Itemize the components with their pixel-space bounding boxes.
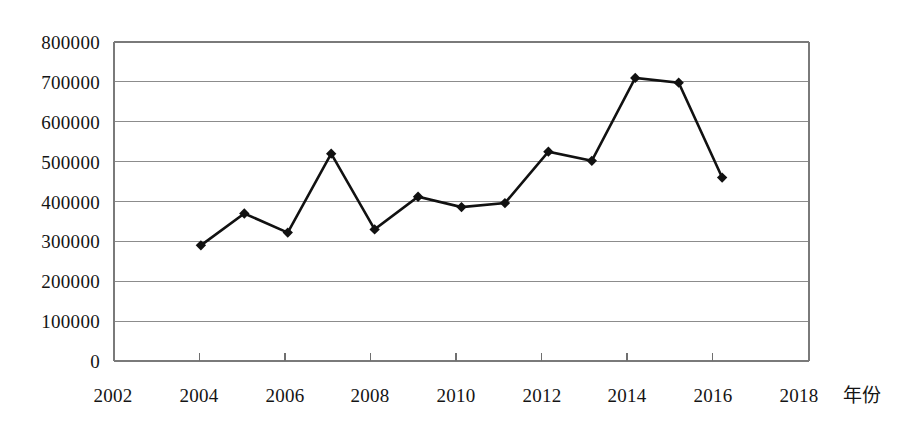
data-point-2006 — [283, 227, 293, 237]
plot-area — [0, 0, 899, 447]
xtick-label-2016: 2016 — [668, 386, 758, 405]
data-point-2010 — [456, 202, 466, 212]
data-point-2013 — [587, 156, 597, 166]
line-chart: 800000 700000 600000 500000 400000 30000… — [0, 0, 899, 447]
data-point-2016 — [717, 172, 727, 182]
xtick-label-2014: 2014 — [582, 386, 672, 405]
xtick-label-2008: 2008 — [325, 386, 415, 405]
x-axis-ticks — [199, 353, 712, 361]
xtick-label-2002: 2002 — [68, 386, 158, 405]
data-point-2007 — [326, 148, 336, 158]
xtick-label-2018: 2018 — [754, 386, 844, 405]
xtick-label-2006: 2006 — [240, 386, 330, 405]
x-axis-title: 年份 — [843, 386, 881, 405]
gridlines — [114, 82, 809, 322]
xtick-label-2010: 2010 — [411, 386, 501, 405]
xtick-label-2012: 2012 — [497, 386, 587, 405]
xtick-label-2004: 2004 — [154, 386, 244, 405]
data-point-2015 — [673, 77, 683, 87]
